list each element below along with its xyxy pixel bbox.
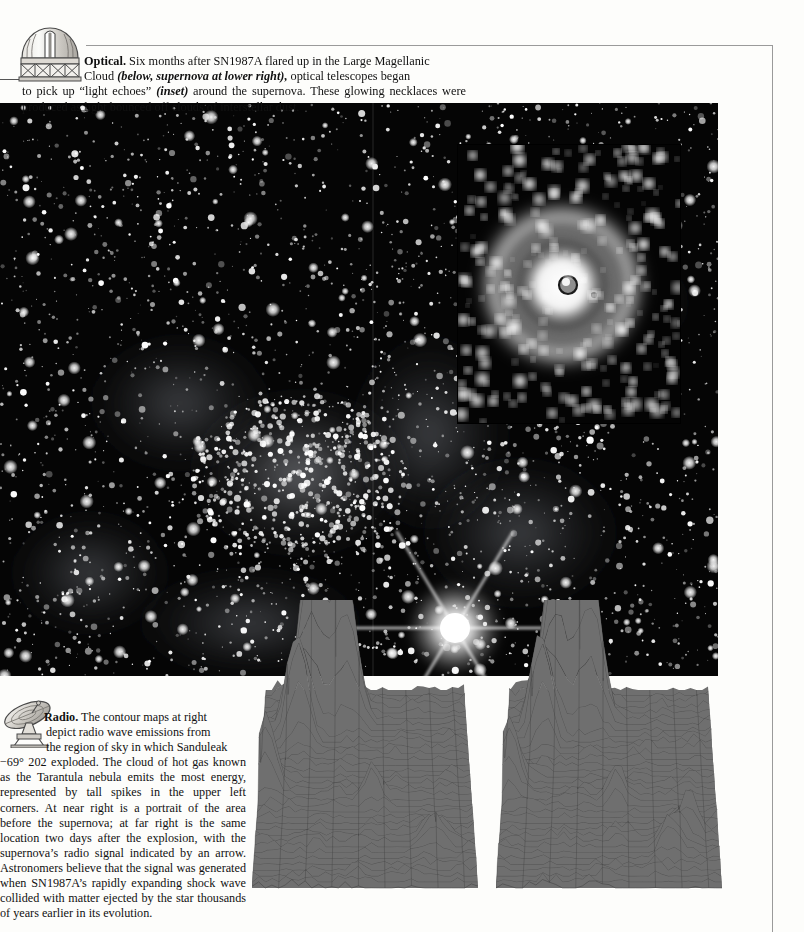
radio-caption-text: Radio. The contour maps at right depict … xyxy=(0,710,246,921)
radio-contour-map-after xyxy=(496,600,722,896)
radio-contour-map-before xyxy=(252,600,478,896)
radio-line3: the region of sky in which Sanduleak xyxy=(0,740,246,755)
optical-line2-italic: (below, supernova at lower right), xyxy=(117,69,287,83)
optical-line1: Six months after SN1987A flared up in th… xyxy=(126,54,430,68)
radio-line2: depict radio wave emissions from xyxy=(0,725,246,740)
optical-line2b: optical telescopes began xyxy=(287,69,410,83)
magazine-page: Optical. Six months after SN1987A flared… xyxy=(0,0,804,932)
radio-line1: The contour maps at right xyxy=(78,710,207,724)
optical-heading: Optical. xyxy=(84,54,126,68)
light-echo-graphic xyxy=(458,145,680,423)
optical-caption-text: Optical. Six months after SN1987A flared… xyxy=(22,54,466,115)
optical-line3a: to pick up “light echoes” xyxy=(22,84,156,98)
optical-line3b: around the supernova. These glowing neck… xyxy=(188,84,437,98)
radio-heading: Radio. xyxy=(44,710,78,724)
light-echo-inset-photo xyxy=(458,145,680,423)
optical-photograph xyxy=(0,103,718,676)
radio-body-rest: −69° 202 exploded. The cloud of hot gas … xyxy=(0,755,246,920)
optical-caption-block: Optical. Six months after SN1987A flared… xyxy=(0,22,470,104)
optical-line2a: Cloud xyxy=(84,69,117,83)
optical-line3-italic: (inset) xyxy=(156,84,188,98)
